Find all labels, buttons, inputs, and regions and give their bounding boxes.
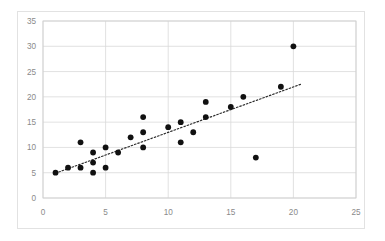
chart-canvas: 0510152025 05101520253035 [18,12,366,230]
data-point [103,145,109,151]
y-tick-label: 20 [27,93,37,102]
data-point [240,94,246,100]
data-point [140,145,146,151]
data-points [53,43,297,175]
data-point [90,160,96,166]
gridlines [43,21,356,198]
x-tick-label: 5 [103,208,108,217]
y-tick-label: 25 [27,68,37,77]
x-tick-label: 20 [289,208,299,217]
x-tick-label: 25 [351,208,361,217]
data-point [165,124,171,130]
y-tick-label: 35 [27,17,37,26]
y-tick-label: 10 [27,143,37,152]
axis-lines [43,21,356,198]
data-point [140,129,146,135]
data-point [278,84,284,90]
data-point [203,99,209,105]
data-point [115,150,121,156]
y-tick-label: 5 [31,169,36,178]
y-tick-label: 0 [31,194,36,203]
data-point [65,165,71,171]
x-tick-label: 0 [41,208,46,217]
y-tick-label: 15 [27,118,37,127]
data-point [291,43,297,49]
x-tick-label: 15 [226,208,236,217]
data-point [228,104,234,110]
x-axis-tick-labels: 0510152025 [41,208,361,217]
data-point [178,139,184,145]
data-point [90,150,96,156]
x-tick-label: 10 [164,208,174,217]
data-point [178,119,184,125]
data-point [128,134,134,140]
data-point [78,139,84,145]
data-point [53,170,59,176]
chart-frame: 0510152025 05101520253035 [17,11,365,229]
data-point [253,155,259,161]
data-point [78,165,84,171]
data-point [103,165,109,171]
data-point [90,170,96,176]
scatter-plot: 0510152025 05101520253035 [18,12,366,230]
y-tick-label: 30 [27,42,37,51]
data-point [140,114,146,120]
y-axis-tick-labels: 05101520253035 [27,17,37,203]
data-point [203,114,209,120]
data-point [190,129,196,135]
